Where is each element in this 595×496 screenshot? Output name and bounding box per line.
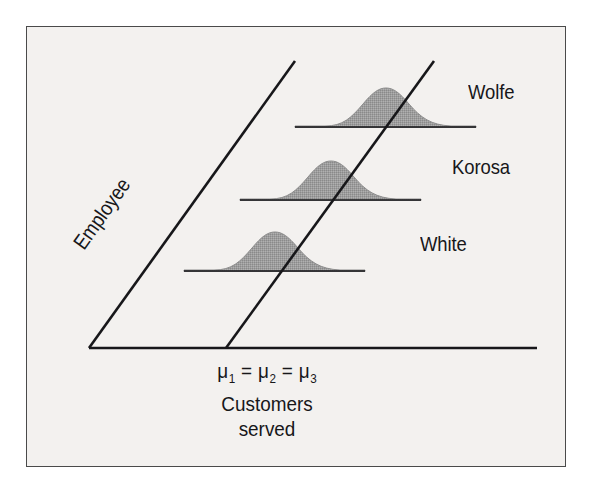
x-axis-caption-block: μ1 = μ2 = μ3 Customers served <box>152 358 382 441</box>
series-label-white: White <box>420 232 467 256</box>
distribution-curve-korosa <box>240 161 421 201</box>
distribution-area-white <box>184 232 365 272</box>
series-label-wolfe: Wolfe <box>468 80 514 104</box>
x-axis-caption-line-2: served <box>164 416 371 441</box>
x-axis-caption-line-1: Customers <box>164 391 371 416</box>
distribution-area-wolfe <box>295 88 476 128</box>
distribution-curve-white <box>184 232 365 272</box>
mean-equality-caption: μ1 = μ2 = μ3 <box>164 358 371 391</box>
figure-root: Employee Wolfe Korosa White μ1 = μ2 = μ3… <box>0 0 595 496</box>
series-label-korosa: Korosa <box>452 155 510 179</box>
common-mean-axis-line <box>226 61 434 348</box>
distribution-curve-wolfe <box>295 88 476 128</box>
distribution-area-korosa <box>240 161 421 201</box>
